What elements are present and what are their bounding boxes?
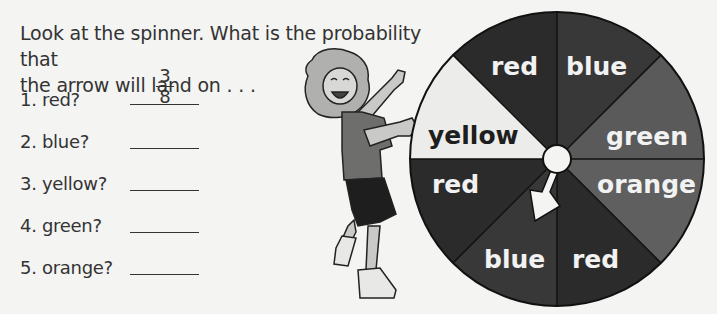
- label-yellow: yellow: [428, 121, 519, 150]
- label-red-bottom: red: [572, 245, 619, 274]
- spinner: red blue green orange red blue red yello…: [410, 12, 704, 306]
- label-red-left: red: [432, 170, 479, 199]
- label-blue-bottom: blue: [484, 245, 545, 274]
- spinner-illustration: red blue green orange red blue red yello…: [0, 0, 717, 314]
- label-red-top: red: [491, 52, 538, 81]
- spinner-hub: [543, 145, 571, 173]
- girl-illustration: [305, 49, 418, 298]
- label-orange: orange: [597, 170, 696, 199]
- label-green: green: [606, 122, 688, 151]
- label-blue-top: blue: [566, 52, 627, 81]
